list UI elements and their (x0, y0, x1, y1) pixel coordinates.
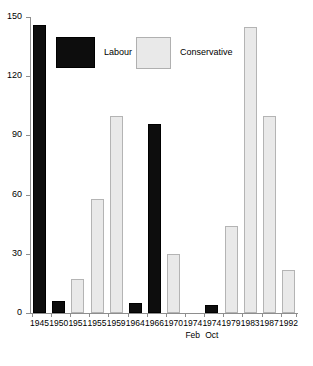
bar-1959-conservative (110, 116, 123, 313)
x-axis-label: 1955 (86, 318, 107, 328)
bar-1966-labour (148, 124, 161, 313)
x-axis-label: 1987 (259, 318, 280, 328)
legend-swatch-labour (56, 37, 95, 68)
bar-1970-conservative (167, 254, 180, 313)
bar-1987-conservative (263, 116, 276, 313)
x-axis-tick (147, 313, 148, 317)
y-axis-tick-label: 90 (0, 129, 22, 140)
x-axis-tick (108, 313, 109, 317)
x-axis-tick (166, 313, 167, 317)
x-axis-tick (128, 313, 129, 317)
y-axis-tick-label: 120 (0, 70, 22, 81)
bar-1983-conservative (244, 27, 257, 313)
x-axis-tick (89, 313, 90, 317)
y-axis-tick-label: 150 (0, 11, 22, 22)
x-axis-tick (281, 313, 282, 317)
bar-1950-labour (52, 301, 65, 313)
legend-label-labour: Labour (104, 47, 132, 58)
bar-1992-conservative (282, 270, 295, 313)
x-axis-tick (296, 313, 297, 317)
x-axis-label: 1979 (220, 318, 241, 328)
bar-1974-oct-labour (205, 305, 218, 313)
x-axis-label: 1966 (144, 318, 165, 328)
x-axis-label: 1983 (240, 318, 261, 328)
x-axis-tick (32, 313, 33, 317)
bar-chart: 0306090120150 19451950195119551959196419… (0, 0, 313, 366)
bar-1979-conservative (225, 226, 238, 313)
legend-label-conservative: Conservative (180, 47, 233, 58)
x-axis-label: 1964 (125, 318, 146, 328)
y-axis-tick-label: 60 (0, 189, 22, 200)
bar-1945-labour (33, 25, 46, 313)
x-axis-tick (185, 313, 186, 317)
x-axis-label: 1970 (163, 318, 184, 328)
y-axis-tick (26, 313, 31, 314)
x-axis-tick (223, 313, 224, 317)
x-axis-label: 1950 (48, 318, 69, 328)
bar-1951-conservative (71, 279, 84, 313)
legend-swatch-conservative (136, 37, 171, 69)
x-axis-label: 1974 (182, 318, 203, 328)
x-axis-label: 1959 (106, 318, 127, 328)
y-axis-tick-label: 0 (0, 307, 22, 318)
x-axis-sublabel: Feb (182, 330, 203, 340)
x-axis-tick (204, 313, 205, 317)
bar-1955-conservative (91, 199, 104, 313)
x-axis-tick (51, 313, 52, 317)
x-axis-tick (242, 313, 243, 317)
y-axis-tick-label: 30 (0, 248, 22, 259)
bar-1964-labour (129, 303, 142, 313)
x-axis-label: 1945 (29, 318, 50, 328)
x-axis-sublabel: Oct (201, 330, 222, 340)
x-axis-tick (262, 313, 263, 317)
x-axis-label: 1974 (201, 318, 222, 328)
x-axis-label: 1992 (278, 318, 299, 328)
x-axis-label: 1951 (67, 318, 88, 328)
x-axis-tick (70, 313, 71, 317)
